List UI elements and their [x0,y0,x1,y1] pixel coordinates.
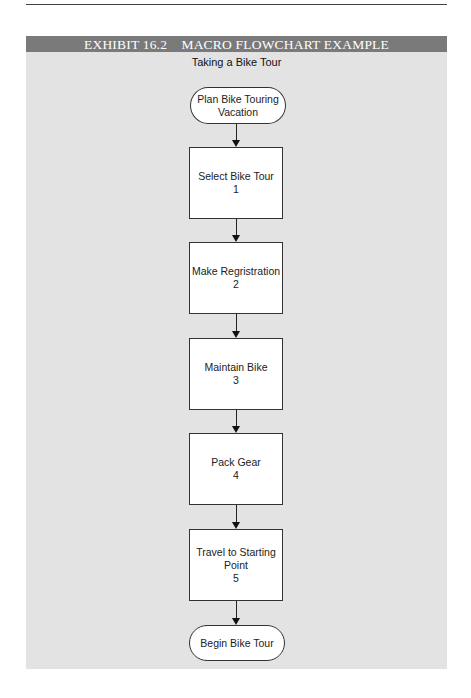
arrow-head-icon [232,331,240,338]
process-step-5: Travel to Starting Point 5 [189,529,283,601]
process-step-4: Pack Gear 4 [189,433,283,505]
end-terminator-label: Begin Bike Tour [200,637,273,650]
connector-line [236,601,237,618]
arrow-head-icon [232,522,240,529]
connector-line [236,124,237,140]
end-terminator: Begin Bike Tour [189,625,285,661]
start-terminator: Plan Bike Touring Vacation [190,87,286,124]
process-step-number: 2 [233,278,239,291]
exhibit-panel: EXHIBIT 16.2 MACRO FLOWCHART EXAMPLE Tak… [26,36,447,669]
exhibit-header: EXHIBIT 16.2 MACRO FLOWCHART EXAMPLE [26,36,447,52]
process-step-label: Pack Gear [211,456,261,469]
connector-line [236,505,237,522]
arrow-head-icon [232,235,240,242]
process-step-number: 4 [233,469,239,482]
connector-line [236,219,237,235]
arrow-head-icon [232,618,240,625]
process-step-number: 5 [233,572,239,585]
process-step-label-line-1: Travel to Starting [196,546,276,559]
process-step-label: Select Bike Tour [198,170,274,183]
arrow-head-icon [232,140,240,147]
process-step-label: Make Regristration [192,265,280,278]
connector-line [236,410,237,426]
process-step-2: Make Regristration 2 [189,242,283,314]
connector-line [236,314,237,331]
start-terminator-line-2: Vacation [218,106,258,119]
process-step-3: Maintain Bike 3 [189,338,283,410]
process-step-label: Maintain Bike [204,361,267,374]
arrow-head-icon [232,426,240,433]
top-rule [26,4,447,5]
process-step-number: 3 [233,374,239,387]
process-step-label-line-2: Point [224,559,248,572]
process-step-number: 1 [233,183,239,196]
start-terminator-line-1: Plan Bike Touring [197,93,279,106]
flowchart-title: Taking a Bike Tour [26,56,447,68]
process-step-1: Select Bike Tour 1 [189,147,283,219]
